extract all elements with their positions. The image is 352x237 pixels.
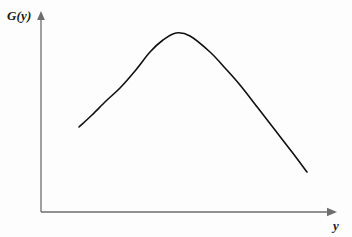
x-axis bbox=[41, 208, 337, 216]
curve-g-of-y bbox=[79, 33, 307, 172]
x-axis-arrowhead-icon bbox=[327, 208, 337, 216]
y-axis-label: G(y) bbox=[7, 8, 32, 24]
x-axis-label: y bbox=[333, 218, 339, 234]
y-axis-arrowhead-icon bbox=[37, 11, 45, 20]
y-axis bbox=[37, 11, 45, 212]
plot-canvas bbox=[0, 0, 352, 237]
figure-container: G(y) y bbox=[0, 0, 352, 237]
